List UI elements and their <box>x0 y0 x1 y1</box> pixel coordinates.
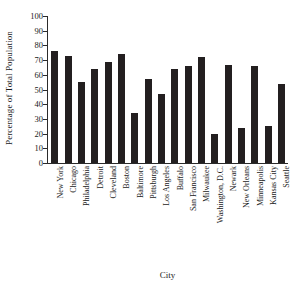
y-tick-label: 10 <box>35 144 44 153</box>
x-tick-label-text: Cleveland <box>110 166 118 198</box>
x-axis-title-text: City <box>160 270 176 280</box>
bar <box>185 66 192 163</box>
y-tick-label: 30 <box>35 115 44 124</box>
x-tick-label: Philadelphia <box>83 164 91 204</box>
bar <box>51 51 58 163</box>
bar <box>171 69 178 163</box>
x-tick-label: Cleveland <box>110 164 118 196</box>
x-tick-label-text: Seattle <box>283 166 291 188</box>
x-tick-label-text: Chicago <box>70 166 78 193</box>
x-tick-label: New York <box>57 164 65 196</box>
x-tick-label: Washington, D.C. <box>217 164 225 221</box>
x-tick-label-text: Pittsburgh <box>150 166 158 199</box>
bar <box>158 94 165 163</box>
y-tick-mark <box>43 75 47 76</box>
y-tick-label: 60 <box>35 71 44 80</box>
x-tick-label-text: Baltimore <box>137 166 145 198</box>
bar <box>65 56 72 163</box>
bar <box>251 66 258 163</box>
x-tick-label-text: Newark <box>230 166 238 191</box>
y-axis-title: Percentage of Total Population <box>0 0 18 175</box>
x-tick-label-text: Philadelphia <box>83 166 91 206</box>
x-tick-label: Milwaukee <box>203 164 211 200</box>
y-tick-label: 90 <box>35 26 44 35</box>
x-tick-label-text: Los Angeles <box>163 166 171 206</box>
x-tick-label-text: Boston <box>123 166 131 189</box>
y-tick-label: 70 <box>35 56 44 65</box>
y-tick-label: 50 <box>35 85 44 94</box>
bar <box>211 134 218 163</box>
x-tick-label-text: Milwaukee <box>203 166 211 202</box>
x-tick-label-text: San Francisco <box>190 166 198 211</box>
y-tick-label: 0 <box>39 159 43 168</box>
x-tick-label: Pittsburgh <box>150 164 158 197</box>
x-tick-label: Newark <box>230 164 238 189</box>
x-tick-label: Detroit <box>97 164 105 187</box>
bar <box>238 128 245 163</box>
y-tick-mark <box>43 119 47 120</box>
x-tick-label: San Francisco <box>190 164 198 209</box>
bar <box>265 126 272 163</box>
bar <box>105 62 112 163</box>
x-tick-label: Chicago <box>70 164 78 191</box>
y-tick-label: 20 <box>35 129 44 138</box>
x-axis-tick-labels: New YorkChicagoPhiladelphiaDetroitClevel… <box>47 164 288 262</box>
y-tick-mark <box>43 90 47 91</box>
y-tick-mark <box>43 60 47 61</box>
y-tick-mark <box>43 45 47 46</box>
x-tick-label-text: Washington, D.C. <box>217 166 225 223</box>
x-tick-label-text: New York <box>57 166 65 198</box>
y-tick-label: 80 <box>35 41 44 50</box>
bar <box>198 57 205 163</box>
x-tick-label: New Orleans <box>243 164 251 206</box>
y-tick-mark <box>43 148 47 149</box>
x-tick-label: Minneapolis <box>257 164 265 204</box>
bar <box>145 79 152 163</box>
x-tick-label-text: New Orleans <box>243 166 251 208</box>
bar <box>131 113 138 163</box>
x-tick-label-text: Detroit <box>97 166 105 189</box>
bar <box>118 54 125 163</box>
x-tick-label-text: Kansas City <box>270 166 278 205</box>
y-tick-mark <box>43 134 47 135</box>
x-axis-title: City <box>47 270 288 280</box>
y-axis-title-text: Percentage of Total Population <box>4 31 14 145</box>
bar-chart-figure: Percentage of Total Population 010203040… <box>0 0 293 295</box>
bar <box>278 84 285 163</box>
y-tick-mark <box>43 104 47 105</box>
x-tick-label: Seattle <box>283 164 291 186</box>
bar <box>91 69 98 163</box>
x-tick-label-text: Buffalo <box>177 166 185 190</box>
y-tick-mark <box>43 31 47 32</box>
x-tick-label: Kansas City <box>270 164 278 203</box>
x-tick-label: Los Angeles <box>163 164 171 204</box>
x-tick-label: Baltimore <box>137 164 145 196</box>
x-tick-label: Buffalo <box>177 164 185 188</box>
bar-series <box>48 16 288 163</box>
x-tick-label: Boston <box>123 164 131 187</box>
y-tick-label: 100 <box>30 12 43 21</box>
bar <box>225 65 232 163</box>
y-tick-mark <box>43 16 47 17</box>
y-tick-label: 40 <box>35 100 44 109</box>
x-tick-label-text: Minneapolis <box>257 166 265 206</box>
bar <box>78 82 85 163</box>
plot-area: 0102030405060708090100 <box>47 16 288 163</box>
